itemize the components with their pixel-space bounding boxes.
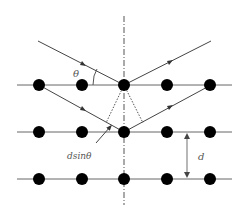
arrow-icon: [167, 60, 173, 65]
atom: [76, 173, 88, 185]
dotted-line-left: [106, 85, 124, 123]
d-label: d: [198, 151, 204, 162]
arrow-icon: [80, 106, 86, 111]
atom: [76, 79, 88, 91]
theta-label: θ: [73, 68, 79, 79]
atom: [204, 79, 216, 91]
arrow-icon: [80, 61, 86, 66]
atom: [118, 79, 130, 91]
atom: [76, 126, 88, 138]
atom: [118, 173, 130, 185]
reflected-ray-2: [124, 85, 211, 132]
atom: [33, 79, 45, 91]
arrow-up-icon: [184, 133, 190, 139]
atom: [161, 126, 173, 138]
arrow-down-icon: [184, 172, 190, 178]
atom: [161, 173, 173, 185]
dotted-line-right: [124, 85, 143, 123]
atom: [118, 126, 130, 138]
bragg-diagram: θ dsinθ d: [0, 0, 248, 213]
dsin-pointer: [96, 127, 110, 143]
atom: [33, 173, 45, 185]
dsin-theta-label: dsinθ: [67, 151, 92, 161]
atom: [161, 79, 173, 91]
arrow-icon: [167, 105, 173, 110]
atom: [204, 173, 216, 185]
reflected-ray-1: [124, 41, 211, 85]
atom: [33, 126, 45, 138]
atom: [204, 126, 216, 138]
